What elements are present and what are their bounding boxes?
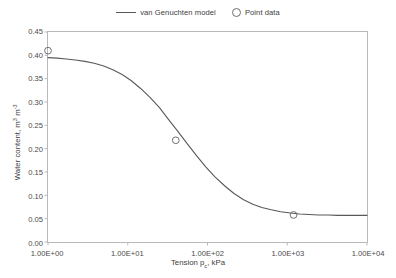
legend-label-model: van Genuchten model — [140, 8, 216, 17]
open-circle-icon — [232, 8, 241, 17]
x-tick-label: 1.00E+01 — [95, 249, 159, 258]
plot-svg — [48, 32, 367, 242]
y-axis-ticks — [45, 32, 48, 242]
x-axis-title-prefix: Tension p — [171, 258, 204, 267]
y-tick-label: 0.05 — [13, 215, 43, 224]
x-axis-ticks — [48, 242, 367, 245]
line-icon — [116, 12, 136, 13]
y-tick-label: 0.45 — [13, 27, 43, 36]
y-axis-title-sup2: -3 — [12, 104, 18, 109]
plot-area — [47, 31, 368, 243]
van-genuchten-curve — [48, 58, 367, 216]
y-tick-label: 0.35 — [13, 74, 43, 83]
y-tick-label: 0.00 — [13, 239, 43, 248]
chart-container: van Genuchten model Point data 0.000.050… — [0, 0, 396, 278]
x-tick-label: 1.00E+00 — [15, 249, 79, 258]
y-axis-title: Water content, m3 m-3 — [12, 82, 23, 202]
y-tick-label: 0.40 — [13, 50, 43, 59]
x-axis-title-suffix: , kPa — [207, 258, 225, 267]
legend-item-model: van Genuchten model — [116, 8, 216, 17]
y-axis-title-prefix: Water content, m — [13, 121, 22, 180]
legend-item-points: Point data — [232, 8, 280, 17]
y-axis-title-sup1: 3 — [12, 118, 18, 121]
y-axis-title-mid: m — [13, 109, 22, 118]
x-axis-title: Tension pc, kPa — [0, 258, 396, 269]
chart-legend: van Genuchten model Point data — [0, 4, 396, 20]
x-tick-label: 1.00E+03 — [256, 249, 320, 258]
data-point-markers — [45, 47, 297, 218]
x-tick-label: 1.00E+04 — [336, 249, 396, 258]
legend-label-points: Point data — [245, 8, 280, 17]
x-tick-label: 1.00E+02 — [176, 249, 240, 258]
